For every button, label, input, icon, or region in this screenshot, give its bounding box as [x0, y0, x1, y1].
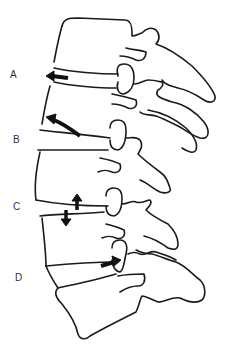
- vertebra-1-front-edge: [54, 26, 62, 62]
- arrow-c-up-icon: [72, 194, 82, 210]
- label-d: D: [15, 272, 22, 283]
- facet-b: [110, 120, 126, 150]
- vertebra-3-front-edge: [35, 152, 40, 200]
- vertebra-4-front-edge: [42, 218, 46, 266]
- vertebra-4-pedicle: [102, 224, 125, 239]
- vertebra-3-pedicle: [98, 158, 121, 173]
- vertebra-5-upper-endplate: [58, 274, 116, 288]
- disc-a-spinous: [134, 80, 208, 138]
- vertebra-2-pedicle: [112, 94, 137, 109]
- vertebra-5-front-edge: [46, 266, 58, 288]
- facet-c: [106, 188, 122, 216]
- disc-c-line: [40, 212, 104, 216]
- facet-a: [117, 64, 134, 94]
- facet-d: [112, 240, 127, 272]
- vertebra-1-lower-endplate: [54, 68, 118, 74]
- label-a: A: [10, 69, 17, 80]
- vertebra-4-spinous: [128, 252, 176, 260]
- spine-drawing: [0, 0, 229, 356]
- arrow-d-icon: [101, 256, 121, 266]
- arrow-a-icon: [46, 71, 68, 81]
- disc-b-spinous: [126, 138, 170, 193]
- label-b: B: [13, 134, 20, 145]
- disc-c-spinous: [122, 200, 178, 249]
- vertebra-5-pedicle: [118, 274, 145, 292]
- label-c: C: [13, 201, 20, 212]
- spine-diagram: A B C D: [0, 0, 229, 356]
- disc-a-lower-line: [54, 82, 116, 88]
- vertebra-1-pedicle: [120, 48, 146, 61]
- arrow-c-down-icon: [61, 210, 71, 226]
